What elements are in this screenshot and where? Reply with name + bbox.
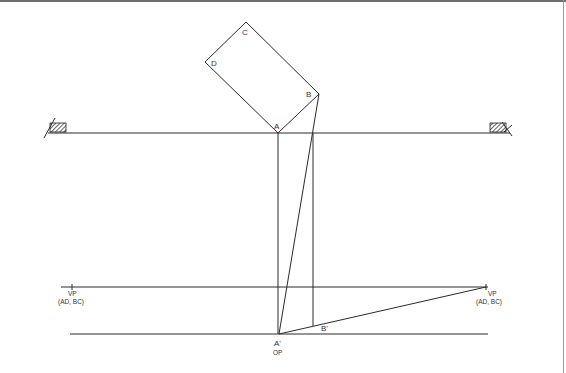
right-wall-marker-icon	[490, 122, 512, 136]
label-a-prime: A'	[274, 339, 281, 348]
label-b-prime: B'	[321, 324, 328, 333]
left-wall-marker-icon	[44, 118, 66, 138]
label-b: B	[306, 90, 311, 99]
label-vp-right-sub: (AD, BC)	[476, 298, 502, 306]
perspective-line-ab	[279, 287, 486, 334]
plan-rectangle	[205, 22, 319, 133]
diagram-canvas: A B C D A' OP B' VP (AD, BC) VP (AD, BC)	[0, 0, 566, 373]
label-vp-left-sub: (AD, BC)	[58, 298, 84, 306]
label-vp-left: VP	[68, 290, 77, 297]
label-op: OP	[273, 349, 282, 356]
label-d: D	[211, 59, 217, 68]
perspective-drawing: A B C D A' OP B' VP (AD, BC) VP (AD, BC)	[0, 0, 566, 373]
label-a: A	[274, 122, 280, 131]
label-vp-right: VP	[488, 290, 497, 297]
label-c: C	[242, 28, 248, 37]
